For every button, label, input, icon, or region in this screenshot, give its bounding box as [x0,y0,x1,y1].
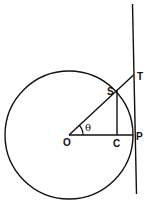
label-C: C [113,138,120,149]
diagram-canvas: θ O C P S T [0,0,149,209]
label-theta: θ [85,122,91,133]
angle-arc [80,126,84,136]
line-OT [69,75,134,135]
label-S: S [107,86,114,97]
label-P: P [136,131,143,142]
label-T: T [137,71,143,82]
tangent-line [133,4,137,194]
label-O: O [63,137,71,148]
